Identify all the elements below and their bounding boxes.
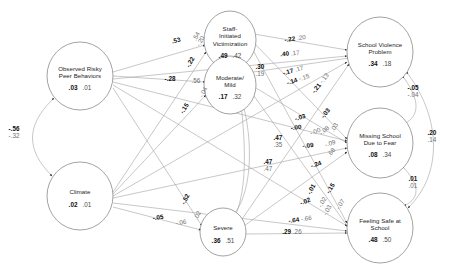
path-coefficient-p-56: .56 xyxy=(192,77,201,84)
correlation-secondary: -.04 xyxy=(401,91,425,98)
node-secondary-estimate: .32 xyxy=(233,93,242,100)
node-estimate: .08 xyxy=(369,151,378,158)
path-coefficient-p-neg28: -.28 xyxy=(165,75,176,82)
diagram-svg xyxy=(0,0,460,272)
coefficient-primary: .29 xyxy=(282,228,291,235)
path-coefficient-p-neg00: -.00 xyxy=(290,123,302,131)
correlation-secondary: .14 xyxy=(420,136,444,143)
coefficient-secondary: .17 xyxy=(289,49,300,57)
edge-layer xyxy=(33,11,434,263)
node-estimate: .34 xyxy=(369,60,378,67)
node-secondary-estimate: .18 xyxy=(383,60,392,67)
coefficient-secondary: .56 xyxy=(192,77,201,84)
coefficient-secondary: .35 xyxy=(267,141,289,148)
node-values-staff_initiated_victimization: .49.42 xyxy=(192,52,268,59)
path-coefficient-p-30: .30.19 xyxy=(249,63,271,77)
node-secondary-estimate: .50 xyxy=(383,236,392,243)
correlation-secondary: .01 xyxy=(401,182,425,189)
node-secondary-estimate: .01 xyxy=(83,201,92,208)
node-values-school_violence_problem: .34.18 xyxy=(335,60,425,67)
correlation-label-corr-right-top: -.05-.04 xyxy=(401,84,425,98)
coefficient-primary: .30 xyxy=(249,63,271,70)
node-secondary-estimate: .42 xyxy=(233,52,242,59)
correlation-primary: -.05 xyxy=(401,84,425,91)
node-secondary-estimate: .34 xyxy=(383,151,392,158)
node-school-violence-problem[interactable] xyxy=(347,17,413,87)
node-values-observed_risky_peer: .03.01 xyxy=(35,84,125,91)
node-severe[interactable] xyxy=(200,208,246,256)
edge-moderate-to-severe xyxy=(234,108,249,214)
coefficient-secondary: .47 xyxy=(257,165,279,172)
correlation-primary: .01 xyxy=(401,175,425,182)
node-values-climate: .02.01 xyxy=(35,201,125,208)
correlation-label-corr-right-bottom: .01.01 xyxy=(401,175,425,189)
node-values-severe: .36.51 xyxy=(188,237,258,244)
node-values-feeling_safe_at_school: .48.50 xyxy=(335,236,425,243)
node-observed-risky-peer-behaviors[interactable] xyxy=(47,42,113,110)
node-secondary-estimate: .51 xyxy=(226,237,235,244)
node-estimate: .03 xyxy=(69,84,78,91)
coefficient-primary: -.28 xyxy=(165,75,176,82)
node-estimate: .36 xyxy=(212,237,221,244)
coefficient-primary: .47 xyxy=(267,134,289,141)
node-missing-school-due-to-fear[interactable] xyxy=(347,108,413,178)
path-diagram-canvas: Observed Risky Peer Behaviors.03.01Clima… xyxy=(0,0,460,272)
node-estimate: .02 xyxy=(69,201,78,208)
correlation-primary: -.56 xyxy=(2,125,26,132)
corr-curve-peer-climate xyxy=(33,100,53,176)
coefficient-secondary: .19 xyxy=(249,70,271,77)
node-secondary-estimate: .01 xyxy=(83,84,92,91)
edge-peer-to-severe xyxy=(113,88,202,226)
node-feeling-safe-at-school[interactable] xyxy=(347,193,413,263)
coefficient-secondary: .20 xyxy=(295,33,306,41)
coefficient-primary: -.09 xyxy=(302,141,314,149)
correlation-label-corr-left: -.56-.32 xyxy=(2,125,26,139)
path-coefficient-p-47a: .47.35 xyxy=(267,134,289,148)
correlation-secondary: -.32 xyxy=(2,132,26,139)
node-estimate: .17 xyxy=(219,93,228,100)
node-climate[interactable] xyxy=(47,162,113,230)
path-coefficient-p-29: .29 .26 xyxy=(282,228,301,235)
correlation-label-corr-right-outer: .20.14 xyxy=(420,129,444,143)
edge-climate-to-staff xyxy=(113,52,206,192)
node-estimate: .49 xyxy=(219,52,228,59)
path-coefficient-p-neg09: -.09 xyxy=(302,141,314,149)
correlation-primary: .20 xyxy=(420,129,444,136)
node-values-missing_school_due_to_fear: .08.34 xyxy=(335,151,425,158)
node-estimate: .48 xyxy=(369,236,378,243)
coefficient-secondary: .26 xyxy=(291,228,302,235)
coefficient-primary: -.00 xyxy=(290,123,302,131)
coefficient-primary: .47 xyxy=(257,158,279,165)
path-coefficient-p-47b: .47.47 xyxy=(257,158,279,172)
